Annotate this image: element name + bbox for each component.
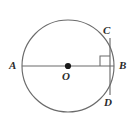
center-point-dot <box>65 63 71 69</box>
right-angle-icon <box>100 56 110 66</box>
point-label-c: C <box>103 25 110 36</box>
circle-geometry-figure: A B C D O <box>0 0 135 124</box>
point-label-a: A <box>9 60 16 71</box>
point-label-d: D <box>104 97 112 108</box>
point-label-b: B <box>119 60 126 71</box>
point-label-o: O <box>62 71 70 82</box>
geometry-canvas <box>0 0 135 124</box>
